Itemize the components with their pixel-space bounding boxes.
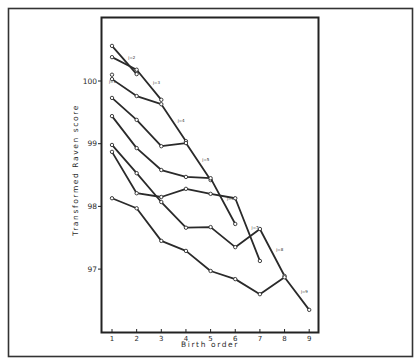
data-point-marker (209, 192, 212, 195)
y-axis-ticks: 979899100 (83, 77, 102, 274)
y-axis-label: Transformed Raven score (71, 104, 80, 237)
data-point-marker (135, 118, 138, 121)
data-point-marker (110, 96, 113, 99)
y-tick-label: 100 (83, 77, 98, 86)
series-label: j=9 (300, 289, 308, 294)
data-point-marker (258, 227, 261, 230)
y-tick-label: 99 (87, 139, 97, 148)
data-point-marker (160, 200, 163, 203)
figure: 123456789 979899100 j=1j=2j=3j=4j=5j=6j=… (0, 0, 420, 363)
series-label: j=2 (127, 55, 135, 60)
data-point-marker (160, 239, 163, 242)
series-j-9: j=9 (110, 197, 311, 312)
x-tick-label: 1 (110, 335, 114, 343)
plot-frame (102, 18, 319, 333)
data-point-marker (258, 259, 261, 262)
data-point-marker (110, 143, 113, 146)
data-point-marker (184, 187, 187, 190)
data-point-marker (234, 277, 237, 280)
data-point-marker (160, 98, 163, 101)
data-point-marker (135, 94, 138, 97)
data-point-marker (135, 68, 138, 71)
series-line (112, 98, 211, 180)
data-point-marker (184, 175, 187, 178)
y-tick-label: 97 (87, 265, 97, 274)
x-tick-label: 2 (134, 335, 138, 343)
data-point-marker (135, 146, 138, 149)
x-axis-label: Birth order (181, 340, 239, 349)
data-point-marker (184, 141, 187, 144)
series-group: j=1j=2j=3j=4j=5j=6j=7j=8j=9 (108, 44, 311, 311)
data-point-marker (160, 168, 163, 171)
series-label: j=3 (152, 80, 160, 85)
data-point-marker (209, 225, 212, 228)
x-tick-label: 9 (307, 335, 311, 343)
series-j-2: j=2 (110, 44, 138, 76)
data-point-marker (110, 55, 113, 58)
data-point-marker (308, 308, 311, 311)
data-point-marker (184, 226, 187, 229)
data-point-marker (110, 73, 113, 76)
data-point-marker (160, 195, 163, 198)
outer-frame (9, 9, 413, 357)
series-label: j=4 (177, 118, 185, 123)
data-point-marker (258, 292, 261, 295)
data-point-marker (110, 114, 113, 117)
series-line (112, 198, 309, 310)
line-chart: 123456789 979899100 j=1j=2j=3j=4j=5j=6j=… (0, 0, 420, 363)
data-point-marker (234, 245, 237, 248)
series-j-8: j=8 (110, 143, 286, 277)
data-point-marker (160, 145, 163, 148)
data-point-marker (110, 150, 113, 153)
data-point-marker (234, 197, 237, 200)
x-tick-label: 8 (282, 335, 286, 343)
data-point-marker (160, 102, 163, 105)
x-tick-label: 3 (159, 335, 163, 343)
data-point-marker (209, 176, 212, 179)
series-line (112, 116, 235, 224)
y-tick-label: 98 (87, 202, 97, 211)
data-point-marker (283, 276, 286, 279)
data-point-marker (135, 192, 138, 195)
data-point-marker (110, 44, 113, 47)
x-tick-label: 7 (258, 335, 262, 343)
data-point-marker (184, 249, 187, 252)
data-point-marker (234, 222, 237, 225)
series-label: j=5 (201, 157, 209, 162)
data-point-marker (135, 72, 138, 75)
data-point-marker (110, 77, 113, 80)
data-point-marker (209, 269, 212, 272)
data-point-marker (135, 171, 138, 174)
series-line (112, 57, 161, 100)
series-label: j=8 (275, 247, 283, 252)
data-point-marker (135, 207, 138, 210)
data-point-marker (110, 197, 113, 200)
series-j-6: j=6 (110, 114, 237, 225)
